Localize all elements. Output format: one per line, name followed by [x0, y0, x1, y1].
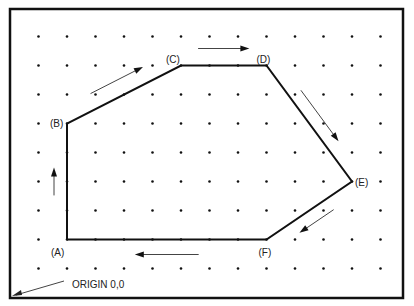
grid-dot — [351, 35, 354, 38]
origin-arrowhead-icon — [12, 290, 22, 296]
grid-dot — [94, 122, 97, 125]
grid-dot — [237, 35, 240, 38]
grid-dot — [379, 64, 382, 67]
diagram-border — [10, 9, 403, 298]
grid-dot — [94, 180, 97, 183]
grid-dot — [351, 93, 354, 96]
grid-dot — [123, 151, 126, 154]
direction-arrow-d-e — [301, 90, 339, 141]
arrowhead-icon — [240, 46, 249, 52]
grid-dot — [294, 64, 297, 67]
grid-dot — [379, 209, 382, 212]
grid-dot — [265, 122, 268, 125]
grid-dot — [37, 35, 40, 38]
grid-dot — [379, 267, 382, 270]
grid-dot — [94, 209, 97, 212]
grid-dot — [123, 35, 126, 38]
grid-dot — [379, 122, 382, 125]
grid-dot — [180, 180, 183, 183]
grid-dot — [351, 151, 354, 154]
grid-dot — [180, 267, 183, 270]
grid-dot — [351, 267, 354, 270]
grid-dot — [151, 267, 154, 270]
grid-dot — [180, 151, 183, 154]
grid-dot — [322, 238, 325, 241]
grid-dot — [322, 151, 325, 154]
grid-dot — [379, 180, 382, 183]
grid-dot — [237, 209, 240, 212]
point-label-f: (F) — [259, 247, 272, 258]
grid-dot — [123, 209, 126, 212]
grid-dot — [265, 93, 268, 96]
grid-dot — [265, 209, 268, 212]
grid-dot — [151, 151, 154, 154]
grid-dot — [237, 267, 240, 270]
grid-dot — [265, 35, 268, 38]
grid-dot — [208, 151, 211, 154]
grid-dot — [180, 93, 183, 96]
grid-dot — [94, 151, 97, 154]
grid-dot — [379, 151, 382, 154]
grid-dot — [180, 122, 183, 125]
arrowhead-icon — [51, 168, 57, 177]
arrow-shaft — [91, 70, 138, 94]
grid-dot — [237, 151, 240, 154]
grid-dot — [322, 267, 325, 270]
arrowhead-icon — [134, 67, 143, 74]
grid-dot — [208, 122, 211, 125]
grid-dot — [66, 267, 69, 270]
grid-dot — [37, 64, 40, 67]
grid-dot — [151, 209, 154, 212]
point-label-a: (A) — [51, 247, 64, 258]
grid-dot — [265, 267, 268, 270]
grid-dot — [237, 180, 240, 183]
direction-arrow-c-d — [198, 46, 249, 52]
grid-dot — [351, 209, 354, 212]
grid-dot — [322, 35, 325, 38]
point-label-e: (E) — [355, 177, 368, 188]
origin-leader-line — [16, 281, 64, 295]
grid-dot — [123, 122, 126, 125]
grid-dot — [37, 151, 40, 154]
grid-dot — [37, 122, 40, 125]
grid-dot — [180, 35, 183, 38]
grid-dot — [379, 238, 382, 241]
grid-dot — [94, 64, 97, 67]
grid-dot — [37, 267, 40, 270]
grid-dot — [123, 267, 126, 270]
arrowhead-icon — [299, 225, 308, 233]
grid-dot — [294, 209, 297, 212]
grid-dot — [265, 151, 268, 154]
grid-dot — [151, 35, 154, 38]
grid-dot — [66, 35, 69, 38]
point-label-d: (D) — [257, 54, 271, 65]
grid-dot — [237, 93, 240, 96]
grid-dot — [151, 64, 154, 67]
grid-dot — [322, 64, 325, 67]
grid-dot — [351, 238, 354, 241]
grid-dot — [151, 180, 154, 183]
point-label-b: (B) — [50, 118, 63, 129]
grid-dot — [37, 238, 40, 241]
grid-dot — [151, 93, 154, 96]
grid-dot — [94, 35, 97, 38]
grid-dot — [265, 180, 268, 183]
grid-dot — [208, 209, 211, 212]
direction-arrow-a-b — [51, 168, 57, 196]
point-label-c: (C) — [166, 54, 180, 65]
grid-dot — [294, 151, 297, 154]
grid-dot — [322, 180, 325, 183]
toolpath-diagram: (A)(B)(C)(D)(E)(F) ORIGIN 0,0 — [0, 0, 414, 306]
grid-dot — [123, 64, 126, 67]
grid-dot — [37, 93, 40, 96]
point-labels: (A)(B)(C)(D)(E)(F) — [50, 54, 368, 258]
grid-dot — [208, 93, 211, 96]
grid-dot — [322, 93, 325, 96]
grid-dot — [94, 267, 97, 270]
grid-dot — [379, 93, 382, 96]
origin-label: ORIGIN 0,0 — [72, 279, 125, 290]
grid-dot — [237, 122, 240, 125]
grid-dot — [379, 35, 382, 38]
grid-dot — [180, 209, 183, 212]
grid-dot — [66, 93, 69, 96]
